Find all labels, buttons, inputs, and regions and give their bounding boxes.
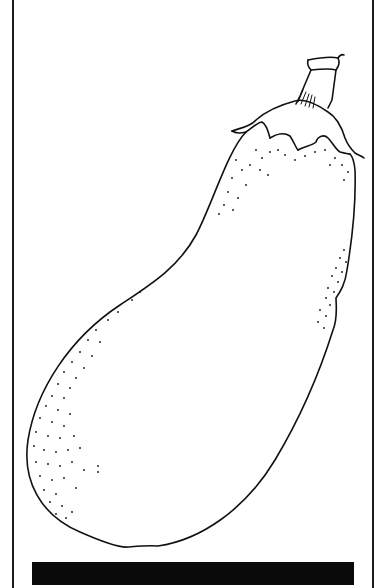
- stipple-shading: [33, 149, 349, 519]
- eggplant-illustration: [0, 0, 383, 588]
- eggplant-body: [27, 132, 355, 547]
- base-bar: [32, 562, 354, 585]
- calyx: [232, 100, 364, 158]
- stem: [296, 55, 344, 108]
